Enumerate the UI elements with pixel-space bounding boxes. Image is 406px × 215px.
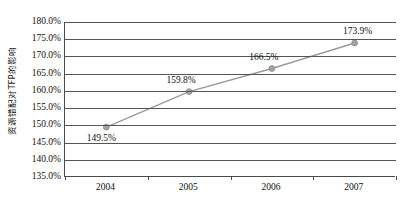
y-axis-tick-label: 150.0% <box>32 119 61 129</box>
y-axis-tick-label: 175.0% <box>32 33 61 43</box>
gridline <box>65 74 396 75</box>
y-axis-tick-label: 140.0% <box>32 154 61 164</box>
data-point-marker <box>269 66 275 72</box>
y-axis-tick-label: 180.0% <box>32 16 61 26</box>
x-axis-tick-labels: 2004200520062007 <box>64 182 395 200</box>
series-line-layer <box>65 22 396 177</box>
y-axis-tick-label: 165.0% <box>32 68 61 78</box>
y-axis-title: 资源错配对TFP的影响 <box>5 31 17 151</box>
y-axis-tick-labels: 180.0%175.0%170.0%165.0%160.0%155.0%150.… <box>18 0 63 215</box>
x-axis-tick-mark <box>148 176 149 180</box>
y-axis-tick-label: 135.0% <box>32 171 61 181</box>
x-axis-tick-mark <box>231 176 232 180</box>
data-point-marker <box>352 40 358 46</box>
x-axis-tick-mark <box>396 176 397 180</box>
y-axis-tick-label: 170.0% <box>32 50 61 60</box>
gridline <box>65 39 396 40</box>
gridline <box>65 160 396 161</box>
y-axis-tick-label: 155.0% <box>32 102 61 112</box>
y-axis-tick-label: 160.0% <box>32 85 61 95</box>
data-point-label: 166.5% <box>244 52 284 62</box>
data-point-label: 149.5% <box>81 133 121 143</box>
x-axis-tick-mark <box>313 176 314 180</box>
x-axis-tick-mark <box>65 176 66 180</box>
y-axis-tick-label: 145.0% <box>32 137 61 147</box>
data-point-label: 159.8% <box>161 75 201 85</box>
x-axis-tick-label: 2007 <box>344 182 363 192</box>
gridline <box>65 91 396 92</box>
gridline <box>65 56 396 57</box>
plot-area <box>64 22 395 177</box>
line-chart: 资源错配对TFP的影响 180.0%175.0%170.0%165.0%160.… <box>0 0 406 215</box>
data-point-label: 173.9% <box>338 26 378 36</box>
x-axis-tick-label: 2005 <box>179 182 198 192</box>
x-axis-tick-label: 2004 <box>96 182 115 192</box>
gridline <box>65 125 396 126</box>
x-axis-tick-label: 2006 <box>261 182 280 192</box>
gridline <box>65 108 396 109</box>
